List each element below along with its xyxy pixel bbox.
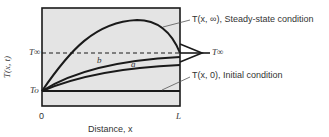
steady-state-annotation: T(x, ∞), Steady-state condition xyxy=(192,14,313,24)
x-axis-label: Distance, x xyxy=(88,124,133,134)
x-tick-l: L xyxy=(176,111,181,121)
t-infinity-right-label: T∞ xyxy=(212,47,223,57)
initial-condition-annotation: T(x, 0), Initial condition xyxy=(192,70,283,80)
x-tick-zero: 0 xyxy=(39,111,44,121)
curve-b-label: b xyxy=(97,55,102,65)
y-axis-label: T(x, t) xyxy=(2,56,12,78)
curve-a-label: a xyxy=(131,59,136,69)
t-o-tick-label: To xyxy=(30,85,39,95)
t-infinity-tick-label: T∞ xyxy=(29,47,40,57)
